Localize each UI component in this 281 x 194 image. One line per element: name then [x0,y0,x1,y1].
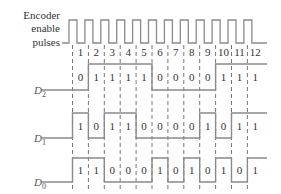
bit-value: 0 [205,71,211,83]
encoder-pulse-waveform [62,20,267,43]
bit-value: 0 [173,71,179,83]
bit-value: 1 [141,71,147,83]
pulse-number: 11 [234,46,245,58]
pulse-number: 5 [141,46,147,58]
d2-waveform [42,64,267,90]
bit-value: 0 [125,164,131,176]
bit-value: 0 [237,164,243,176]
bit-value: 1 [205,120,211,132]
pulse-number: 8 [189,46,195,58]
bit-value: 1 [78,164,84,176]
bit-value: 1 [253,164,259,176]
bit-value: 0 [173,120,179,132]
pulse-number: 1 [78,46,84,58]
pulse-number: 4 [125,46,131,58]
bit-value: 1 [189,164,195,176]
pulse-number: 3 [110,46,116,58]
bit-value: 0 [189,120,195,132]
bit-value: 0 [157,120,163,132]
bit-value: 0 [141,164,147,176]
bit-value: 1 [253,120,259,132]
bit-value: 1 [125,120,131,132]
bit-value: 1 [78,120,84,132]
bit-value: 1 [94,164,100,176]
bit-value: 0 [78,71,84,83]
pulse-number: 6 [157,46,163,58]
pulse-number: 10 [218,46,230,58]
bit-value: 0 [157,71,163,83]
bit-value: 1 [110,120,116,132]
d1-waveform [42,113,267,138]
pulse-number: 12 [250,46,261,58]
d0-waveform [42,158,267,182]
pulse-number: 2 [94,46,100,58]
bit-value: 1 [94,71,100,83]
bit-value: 0 [221,120,227,132]
bit-value: 1 [157,164,163,176]
bit-value: 0 [110,164,116,176]
bit-value: 1 [221,164,227,176]
pulse-number: 7 [173,46,179,58]
bit-value: 0 [94,120,100,132]
bit-value: 0 [189,71,195,83]
timing-diagram: 1234567891011120111100001111011000010111… [0,0,281,194]
bit-value: 1 [221,71,227,83]
bit-value: 1 [125,71,131,83]
bit-value: 0 [205,164,211,176]
bit-value: 0 [141,120,147,132]
bit-value: 1 [237,71,243,83]
bit-value: 1 [253,71,259,83]
bit-value: 0 [173,164,179,176]
pulse-number: 9 [205,46,211,58]
bit-value: 1 [237,120,243,132]
bit-value: 1 [110,71,116,83]
